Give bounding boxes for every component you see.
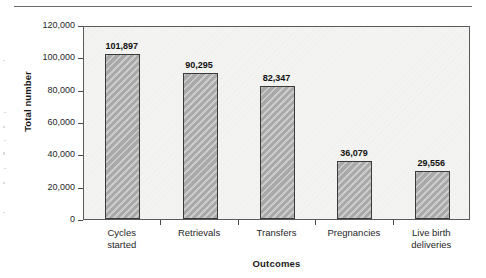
bar-value-label: 29,556 bbox=[401, 158, 461, 168]
bar-value-label: 101,897 bbox=[92, 41, 152, 51]
y-axis-tick-label: 0 bbox=[70, 214, 75, 224]
bar[interactable] bbox=[105, 54, 140, 219]
x-axis-tick-mark bbox=[315, 220, 316, 225]
x-axis-category-label-line: deliveries bbox=[385, 239, 477, 251]
x-axis-tick-mark bbox=[238, 220, 239, 225]
y-axis-tick-label: 80,000 bbox=[47, 85, 75, 95]
y-axis-tick-label: 120,000 bbox=[42, 20, 75, 30]
scan-artifact bbox=[3, 212, 5, 213]
bar-value-label: 90,295 bbox=[169, 60, 229, 70]
plot-area bbox=[83, 26, 470, 220]
y-axis-tick-label: 20,000 bbox=[47, 182, 75, 192]
y-axis-tick-label: 40,000 bbox=[47, 149, 75, 159]
bar[interactable] bbox=[260, 86, 295, 219]
y-axis-tick-label: 100,000 bbox=[42, 52, 75, 62]
scan-artifact bbox=[3, 152, 5, 155]
scan-artifact bbox=[3, 182, 5, 184]
x-axis-tick-mark bbox=[160, 220, 161, 225]
scan-artifact bbox=[4, 112, 6, 113]
x-axis-category-label-line: started bbox=[76, 239, 168, 251]
bar-value-label: 82,347 bbox=[247, 73, 307, 83]
scan-artifact bbox=[3, 60, 5, 61]
x-axis-title: Outcomes bbox=[83, 258, 470, 269]
bar[interactable] bbox=[337, 161, 372, 219]
scan-artifact bbox=[4, 168, 6, 169]
y-axis-tick-mark bbox=[78, 220, 83, 221]
top-horizontal-rule bbox=[14, 6, 472, 7]
x-axis-tick-mark bbox=[393, 220, 394, 225]
bar[interactable] bbox=[183, 73, 218, 219]
y-axis-title: Total number bbox=[22, 42, 33, 162]
x-axis-category-label: Live birthdeliveries bbox=[385, 227, 477, 250]
scan-artifact bbox=[4, 140, 6, 141]
bar[interactable] bbox=[415, 171, 450, 219]
x-axis-category-label-line: Live birth bbox=[385, 227, 477, 239]
bar-chart-figure: Total number 020,00040,00060,00080,00010… bbox=[0, 0, 486, 278]
y-axis-tick-label: 60,000 bbox=[47, 117, 75, 127]
scan-artifact bbox=[3, 126, 5, 128]
bar-value-label: 36,079 bbox=[324, 148, 384, 158]
